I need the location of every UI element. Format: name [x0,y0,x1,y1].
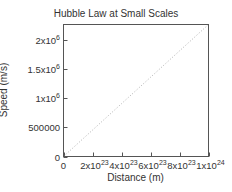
hubble-law-line [64,25,209,157]
x-tick-label: 2x1023 [80,160,108,171]
axis-ticks [64,41,210,158]
x-tick-label: 1x1024 [196,160,224,171]
y-axis-label-text: Speed (m/s) [0,63,9,117]
y-tick-label: 2x106 [35,34,60,45]
x-tick-label: 4x1023 [109,160,137,171]
y-tick-label: 1x106 [35,92,60,103]
plot-frame [64,25,209,157]
x-tick-label: 0 [61,160,66,171]
x-tick-label: 8x1023 [167,160,195,171]
y-tick-label: 500000 [28,121,60,132]
x-tick-label: 6x1023 [138,160,166,171]
y-tick-label: 0 [55,151,60,162]
y-tick-label: 1.5x106 [28,63,60,74]
x-axis-label: Distance (m) [63,172,208,183]
